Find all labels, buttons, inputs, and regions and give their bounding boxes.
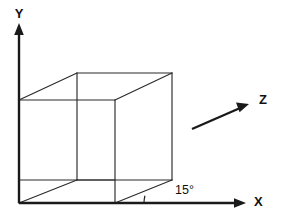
axis-cube-diagram: Y X Z 15° [0,0,281,219]
x-axis-arrowhead [234,198,246,208]
y-axis [14,23,24,203]
diagram-canvas: Y X Z 15° [0,0,281,219]
cube-edge-top-left-diagonal [19,73,77,100]
z-axis [192,103,249,130]
z-axis-line [192,109,239,130]
cube-edge-bottom-left-diagonal [19,180,77,203]
angle-label: 15° [175,183,194,197]
cube-wireframe [19,73,172,203]
y-axis-arrowhead [14,23,24,35]
x-axis [19,198,246,208]
x-axis-label: X [254,194,263,209]
z-axis-label: Z [259,92,267,107]
cube-edge-top-right-diagonal [115,73,172,100]
cube-edge-bottom-right-diagonal [115,180,172,203]
z-axis-arrowhead [236,103,249,113]
y-axis-label: Y [15,6,24,21]
